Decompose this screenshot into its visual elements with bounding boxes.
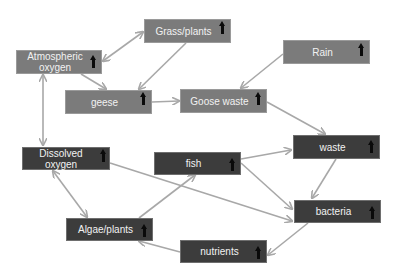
- increase-arrow-icon: [255, 92, 261, 105]
- edge-waste-bacteria: [312, 159, 336, 198]
- node-bacteria[interactable]: bacteria: [294, 200, 381, 223]
- edge-fish-bacteria: [241, 163, 292, 209]
- node-label: bacteria: [312, 206, 364, 217]
- edge-geese-goose-waste: [152, 101, 179, 102]
- edge-nutrients-algae: [139, 241, 180, 252]
- increase-arrow-icon: [219, 21, 225, 34]
- edge-dissolved-oxygen-algae: [53, 171, 87, 217]
- edge-atmospheric-oxygen-geese: [81, 74, 106, 89]
- edge-grass-geese: [139, 43, 186, 89]
- increase-arrow-icon: [100, 149, 106, 162]
- node-grass-plants[interactable]: Grass/plants: [144, 19, 231, 43]
- edge-goose-waste-waste: [267, 102, 325, 134]
- increase-arrow-icon: [140, 92, 146, 105]
- node-label: fish: [182, 158, 214, 169]
- edge-atmospheric-oxygen-grass: [103, 32, 143, 61]
- edge-fish-waste: [241, 150, 291, 159]
- increase-arrow-icon: [255, 246, 261, 259]
- node-nutrients[interactable]: nutrients: [180, 240, 267, 263]
- node-label: Grass/plants: [151, 26, 223, 37]
- node-label: nutrients: [196, 246, 250, 257]
- node-algae-plants[interactable]: Algae/plants: [66, 218, 153, 241]
- node-fish[interactable]: fish: [154, 152, 241, 175]
- increase-arrow-icon: [141, 224, 147, 237]
- node-atmospheric-oxygen[interactable]: Atmospheric oxygen: [16, 50, 102, 74]
- increase-arrow-icon: [369, 206, 375, 219]
- increase-arrow-icon: [229, 158, 235, 171]
- ecosystem-diagram: Atmospheric oxygen Grass/plants Rain gee…: [0, 0, 397, 280]
- edge-bacteria-nutrients: [268, 223, 308, 255]
- node-rain[interactable]: Rain: [283, 40, 370, 64]
- node-label: Algae/plants: [74, 224, 145, 235]
- node-dissolved-oxygen[interactable]: Dissolved oxygen: [22, 147, 110, 170]
- node-waste[interactable]: waste: [293, 135, 380, 159]
- node-label: Rain: [308, 47, 345, 58]
- node-goose-waste[interactable]: Goose waste: [180, 89, 267, 113]
- node-label: Dissolved oxygen: [23, 148, 109, 170]
- node-geese[interactable]: geese: [65, 90, 152, 114]
- edge-rain-goose-waste: [241, 54, 283, 88]
- node-label: geese: [87, 97, 130, 108]
- node-label: Goose waste: [186, 96, 260, 107]
- increase-arrow-icon: [358, 43, 364, 56]
- node-label: Atmospheric oxygen: [21, 51, 97, 73]
- node-label: waste: [315, 142, 357, 153]
- increase-arrow-icon: [368, 140, 374, 153]
- increase-arrow-icon: [90, 55, 96, 68]
